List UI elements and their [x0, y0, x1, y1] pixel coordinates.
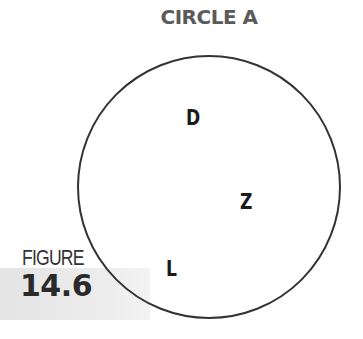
- points-group: DZL: [166, 105, 252, 282]
- circle-a: [78, 56, 340, 318]
- circle-diagram: DZL: [0, 0, 363, 339]
- point-label-d: D: [186, 105, 200, 131]
- point-label-l: L: [166, 256, 177, 282]
- point-label-z: Z: [240, 189, 252, 215]
